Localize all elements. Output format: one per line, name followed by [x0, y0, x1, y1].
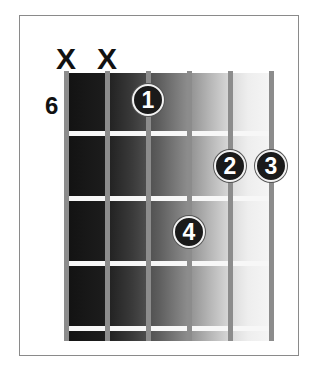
string-6	[64, 71, 69, 341]
string-5	[105, 71, 110, 341]
finger-dot-3: 3	[255, 150, 287, 182]
fret-line-3	[66, 261, 273, 266]
mute-marker-string-6: X	[56, 44, 76, 74]
fret-line-4	[66, 326, 273, 331]
fret-line-1	[66, 131, 273, 136]
finger-dot-1: 1	[132, 84, 164, 116]
string-1	[269, 71, 274, 341]
finger-dot-2: 2	[214, 150, 246, 182]
string-3	[187, 71, 192, 341]
mute-marker-string-5: X	[97, 44, 117, 74]
fret-line-2	[66, 196, 273, 201]
string-2	[228, 71, 233, 341]
starting-fret-label: 6	[45, 94, 58, 118]
fretboard-background	[66, 73, 273, 341]
finger-dot-4: 4	[173, 216, 205, 248]
